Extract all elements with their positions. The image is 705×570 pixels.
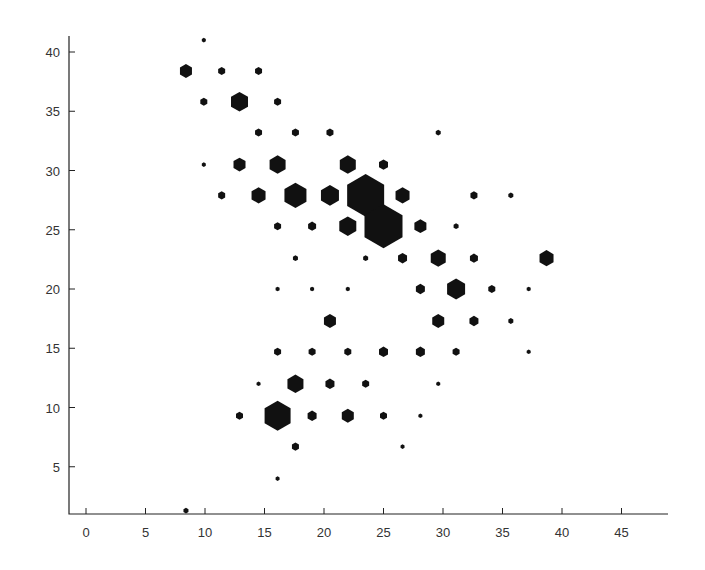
hexbin-point	[380, 412, 387, 420]
hexbin-point	[326, 129, 333, 137]
hexbin-point	[363, 255, 368, 261]
x-tick-label: 45	[614, 525, 628, 540]
hexbin-point	[310, 287, 314, 292]
x-tick-label: 0	[82, 525, 89, 540]
hexbin-point	[255, 67, 262, 75]
hexbin-point	[321, 185, 339, 206]
hexbin-point	[379, 159, 388, 169]
hexbin-point	[231, 92, 248, 112]
hexbin-point	[436, 130, 441, 136]
hexbin-point	[292, 443, 299, 451]
y-axis-ticks: 510152025303540	[46, 45, 75, 475]
hexbin-point	[284, 183, 306, 208]
hexbin-point	[200, 98, 207, 106]
x-tick-label: 35	[495, 525, 509, 540]
hexbin-point	[447, 279, 465, 300]
hexbin-point	[488, 285, 495, 293]
hexbin-point	[346, 287, 350, 292]
axis-lines	[69, 36, 668, 514]
hexbin-point	[416, 284, 425, 294]
hexbin-point	[308, 411, 317, 421]
y-tick-label: 5	[53, 460, 60, 475]
hexbin-point	[453, 348, 460, 356]
hexbin-point	[202, 162, 206, 167]
hexbin-point	[309, 348, 316, 356]
hexbin-point	[340, 155, 356, 173]
x-tick-label: 10	[198, 525, 212, 540]
hexbin-point	[183, 508, 188, 514]
y-tick-label: 15	[46, 341, 60, 356]
y-tick-label: 20	[46, 282, 60, 297]
hexbin-point	[218, 191, 225, 199]
y-tick-label: 25	[46, 223, 60, 238]
hexbin-point	[379, 347, 388, 357]
hexbin-point	[362, 380, 369, 388]
hexbin-point	[180, 64, 192, 78]
hexbin-point	[342, 409, 354, 423]
hexbin-point	[308, 222, 316, 231]
hexbin-point	[418, 413, 422, 418]
hexbin-point	[436, 381, 440, 386]
hexbin-point	[270, 155, 286, 173]
hexbin-point	[265, 401, 291, 431]
hexbin-point	[527, 350, 531, 355]
x-tick-label: 40	[555, 525, 569, 540]
hexbin-point	[276, 476, 280, 481]
x-tick-label: 5	[142, 525, 149, 540]
x-tick-label: 20	[317, 525, 331, 540]
hexbin-point	[344, 348, 351, 356]
y-tick-label: 40	[46, 45, 60, 60]
hexbin-point	[292, 129, 299, 137]
x-axis-ticks: 051015202530354045	[82, 508, 628, 540]
hexbin-point	[234, 158, 246, 172]
x-tick-label: 15	[257, 525, 271, 540]
hexbin-point	[325, 379, 334, 389]
hexbin-point	[287, 375, 303, 393]
hexbin-point	[257, 381, 261, 386]
hexbin-point	[416, 347, 425, 357]
hexbin-point	[339, 216, 356, 236]
hexbin-point	[324, 314, 336, 328]
axes: 510152025303540 051015202530354045	[46, 36, 668, 540]
hexbin-point	[396, 187, 410, 203]
data-points	[180, 38, 554, 514]
hexbin-point	[218, 67, 225, 75]
hexbin-point	[202, 38, 206, 43]
hexbin-point	[252, 187, 266, 203]
hexbin-point	[508, 193, 513, 199]
hexbin-point	[401, 444, 405, 449]
hexbin-point	[527, 287, 531, 292]
y-tick-label: 35	[46, 104, 60, 119]
x-tick-label: 30	[436, 525, 450, 540]
hexbin-point	[398, 253, 407, 263]
x-tick-label: 25	[376, 525, 390, 540]
hexbin-chart: 510152025303540 051015202530354045	[0, 0, 705, 570]
hexbin-point	[414, 219, 426, 233]
y-tick-label: 30	[46, 164, 60, 179]
hexbin-point	[469, 316, 478, 326]
hexbin-point	[540, 250, 554, 266]
hexbin-point	[274, 222, 281, 230]
hexbin-point	[293, 255, 298, 261]
hexbin-point	[470, 191, 477, 199]
hexbin-point	[236, 412, 243, 420]
hexbin-point	[431, 250, 446, 267]
y-tick-label: 10	[46, 401, 60, 416]
hexbin-point	[454, 223, 459, 229]
hexbin-point	[508, 318, 513, 324]
hexbin-point	[255, 129, 262, 137]
hexbin-point	[432, 314, 444, 328]
hexbin-point	[274, 348, 281, 356]
hexbin-point	[470, 254, 478, 263]
hexbin-point	[274, 98, 281, 106]
hexbin-point	[276, 287, 280, 292]
